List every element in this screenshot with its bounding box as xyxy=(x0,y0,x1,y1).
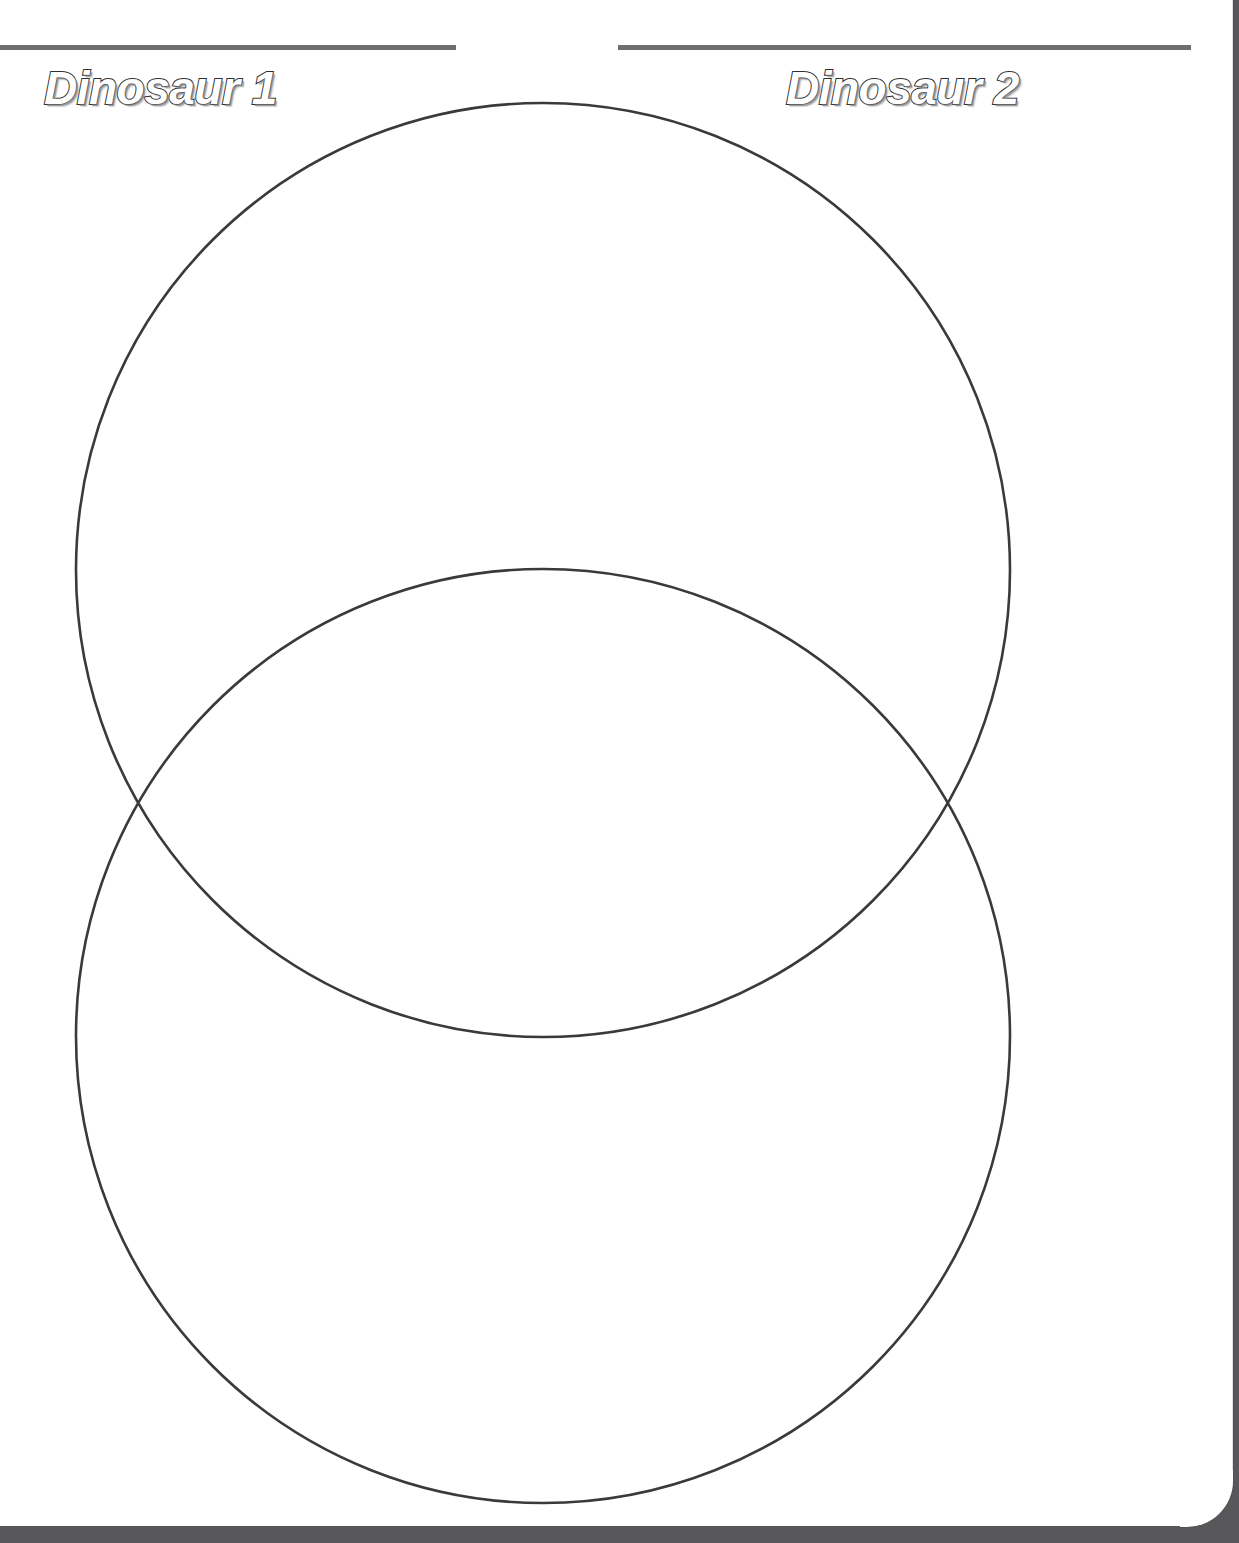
worksheet-page: Dinosaur 1 Dinosaur 2 xyxy=(0,0,1239,1543)
venn-diagram xyxy=(0,0,1239,1543)
